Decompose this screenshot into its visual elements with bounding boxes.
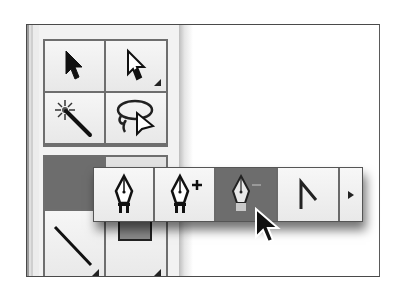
flyout-tearoff-button[interactable]: Tearoff: [340, 168, 362, 221]
illustrator-window: Selection Tool Direct Selection Tool Mag…: [26, 24, 380, 277]
lasso-icon: [113, 96, 159, 140]
flyout-indicator-icon: [154, 79, 161, 86]
selection-tools-group: Selection Tool Direct Selection Tool Mag…: [43, 39, 168, 147]
selection-tool-button[interactable]: Selection Tool: [45, 41, 106, 93]
magic-wand-icon: [52, 96, 96, 140]
hollow-arrow-icon: [121, 48, 151, 84]
flyout-convert-anchor-point-tool[interactable]: Convert Anchor Point Tool: [278, 168, 340, 221]
flyout-pen-tool[interactable]: Pen Tool: [94, 168, 155, 221]
pen-plus-icon: [165, 173, 205, 217]
pen-tool-flyout: Pen Tool Add Anchor Point Tool Delete An…: [93, 167, 363, 222]
convert-anchor-icon: [293, 175, 323, 215]
pen-icon: [109, 173, 139, 217]
arrow-icon: [59, 48, 89, 84]
lasso-tool-button[interactable]: Lasso Tool: [106, 93, 167, 145]
toolbox-panel: Selection Tool Direct Selection Tool Mag…: [27, 25, 180, 277]
triangle-right-icon: [347, 190, 355, 200]
flyout-indicator-icon: [92, 269, 99, 276]
mouse-cursor-icon: [254, 207, 286, 247]
flyout-indicator-icon: [154, 269, 161, 276]
line-icon: [49, 221, 99, 271]
toolbox-shadow: [179, 25, 193, 277]
direct-selection-tool-button[interactable]: Direct Selection Tool: [106, 41, 167, 93]
magic-wand-tool-button[interactable]: Magic Wand Tool: [45, 93, 106, 145]
flyout-add-anchor-point-tool[interactable]: Add Anchor Point Tool: [155, 168, 216, 221]
